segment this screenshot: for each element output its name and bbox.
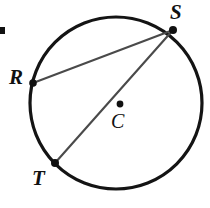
point-r-label: R [9, 67, 23, 88]
center-point-dot [117, 101, 124, 108]
edge-bullet-mark [0, 27, 5, 34]
point-t-label: T [32, 168, 45, 189]
center-point-label: C [111, 111, 124, 131]
circle-diagram-figure: S R T C [0, 0, 210, 208]
point-s-label: S [170, 2, 182, 23]
chord-rs-segment [33, 30, 173, 83]
point-s-dot [169, 26, 177, 34]
point-t-dot [51, 159, 59, 167]
chord-ts-segment [55, 30, 173, 163]
point-r-dot [29, 79, 37, 87]
